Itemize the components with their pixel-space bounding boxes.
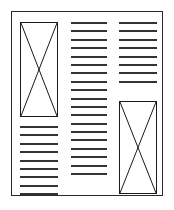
text-rule <box>71 98 107 100</box>
text-rule <box>119 64 157 66</box>
left-column <box>20 12 58 195</box>
text-rule <box>71 114 107 116</box>
diagram-canvas <box>0 0 174 210</box>
text-rule <box>71 173 107 175</box>
cross-x-icon <box>21 23 57 116</box>
text-rule <box>20 193 58 195</box>
text-rule <box>71 22 107 24</box>
text-rule <box>71 156 107 158</box>
text-rule <box>119 72 157 74</box>
text-rule <box>20 160 58 162</box>
text-rule <box>71 131 107 133</box>
text-rule <box>71 72 107 74</box>
text-rule <box>71 165 107 167</box>
text-rule <box>20 126 58 128</box>
left-text-block <box>20 126 58 195</box>
text-rule <box>119 39 157 41</box>
text-rule <box>20 143 58 145</box>
text-rule <box>71 30 107 32</box>
text-rule <box>119 56 157 58</box>
text-rule <box>71 56 107 58</box>
text-rule <box>71 123 107 125</box>
text-rule <box>71 148 107 150</box>
page-sheet <box>11 11 163 196</box>
text-rule <box>71 64 107 66</box>
text-rule <box>71 47 107 49</box>
text-rule <box>119 81 157 83</box>
right-text-block <box>119 22 157 83</box>
left-image-placeholder <box>20 22 58 117</box>
middle-column <box>71 12 107 195</box>
text-rule <box>71 89 107 91</box>
right-image-placeholder <box>119 101 157 194</box>
text-rule <box>71 39 107 41</box>
text-rule <box>119 22 157 24</box>
cross-x-icon <box>120 102 156 193</box>
text-rule <box>20 151 58 153</box>
text-rule <box>71 81 107 83</box>
text-rule <box>71 139 107 141</box>
text-rule <box>20 134 58 136</box>
right-column <box>119 12 157 195</box>
text-rule <box>20 176 58 178</box>
text-rule <box>20 185 58 187</box>
text-rule <box>71 106 107 108</box>
middle-text-block <box>71 22 107 175</box>
text-rule <box>20 168 58 170</box>
text-rule <box>119 30 157 32</box>
text-rule <box>119 47 157 49</box>
